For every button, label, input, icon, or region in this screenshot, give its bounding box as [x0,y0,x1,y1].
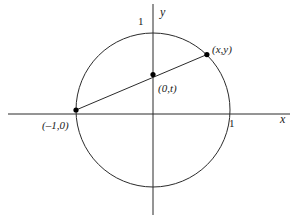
figure-canvas [0,0,304,223]
point-marker-left [73,107,78,112]
point-label-zero-t: (0,t) [158,83,177,94]
y-axis-label: y [160,6,165,18]
point-label-x-y: (x,y) [212,44,232,55]
point-label-minus-one-zero: (–1,0) [42,120,69,131]
point-marker-center [150,72,155,77]
x-axis-tick-label-1: 1 [229,118,235,129]
x-axis-label: x [280,113,285,125]
unit-circle-figure: y x 1 1 (–1,0) (0,t) (x,y) [0,0,304,223]
y-axis-tick-label-1: 1 [138,16,144,27]
secant-line [76,55,207,110]
point-marker-circle [204,52,209,57]
